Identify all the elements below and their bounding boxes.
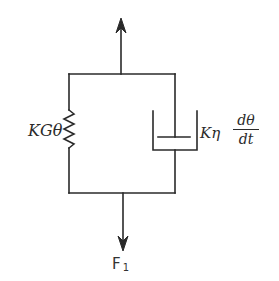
- force-symbol: F: [112, 255, 121, 273]
- spring-label: KGθ: [28, 123, 62, 139]
- spring-zigzag-icon: [64, 74, 74, 193]
- dashpot-label: Kη: [200, 126, 220, 141]
- kelvin-voigt-diagram: KGθ Kη dθ dt F1: [0, 0, 279, 281]
- fraction-numerator: dθ: [232, 113, 260, 129]
- arrow-down-icon: [118, 193, 128, 251]
- force-subscript: 1: [123, 262, 129, 273]
- fraction-denominator: dt: [232, 130, 260, 146]
- arrow-up-icon: [116, 18, 126, 74]
- dashpot-icon: [153, 74, 197, 193]
- derivative-fraction: dθ dt: [232, 113, 260, 146]
- force-label: F1: [112, 257, 129, 273]
